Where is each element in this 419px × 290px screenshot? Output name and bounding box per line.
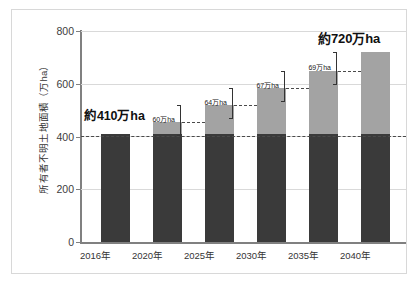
delta-label-2035: 67万ha — [252, 80, 279, 90]
connector-2035-top — [338, 71, 361, 72]
bar-2025[interactable] — [205, 105, 234, 242]
x-label-2040: 2040年 — [335, 248, 376, 262]
chart-root: 所有者不明土地面積（万ha） 800 600 400 200 0 — [0, 0, 419, 290]
delta-bracket-2030 — [229, 88, 233, 119]
x-axis-line — [80, 242, 406, 244]
reference-line-410 — [81, 136, 406, 137]
bar-2035-base — [309, 134, 338, 242]
y-tick-label-600: 600 — [32, 79, 74, 89]
x-label-2020: 2020年 — [127, 248, 168, 262]
bar-2020[interactable] — [153, 122, 182, 242]
bar-2030[interactable] — [257, 88, 286, 242]
delta-bracket-2040 — [333, 52, 337, 85]
x-label-2025: 2025年 — [179, 248, 220, 262]
bar-2020-base — [153, 134, 182, 242]
delta-bracket-2025 — [177, 105, 181, 136]
delta-bracket-2035 — [281, 71, 285, 102]
plot-area — [81, 31, 406, 242]
y-axis-tick-labels: 800 600 400 200 0 — [28, 0, 74, 290]
x-label-2030: 2030年 — [231, 248, 272, 262]
bar-2040-base — [361, 134, 390, 242]
bar-2030-base — [257, 134, 286, 242]
x-label-2035: 2035年 — [283, 248, 324, 262]
delta-label-2040: 69万ha — [304, 62, 331, 72]
connector-2025-top — [234, 105, 257, 106]
bar-2040-increment — [361, 52, 390, 134]
bar-2025-base — [205, 134, 234, 242]
bar-2040[interactable] — [361, 52, 390, 242]
bar-2035[interactable] — [309, 71, 338, 242]
connector-2020-top — [182, 122, 205, 123]
y-tick-label-400: 400 — [32, 132, 74, 142]
y-tick-label-800: 800 — [32, 26, 74, 36]
bar-2016-base — [101, 134, 130, 242]
y-tick-label-0: 0 — [32, 237, 74, 247]
callout-start-value: 約410万ha — [84, 105, 145, 124]
y-tick-label-200: 200 — [32, 184, 74, 194]
delta-label-2030: 64万ha — [200, 97, 227, 107]
callout-end-value: 約720万ha — [318, 28, 380, 47]
gridline-600 — [81, 84, 406, 85]
delta-label-2025: 60万ha — [148, 114, 175, 124]
bar-2016[interactable] — [101, 134, 130, 242]
x-label-2016: 2016年 — [75, 248, 116, 262]
y-axis-title-container: 所有者不明土地面積（万ha） — [26, 0, 27, 290]
connector-2030-top — [286, 88, 309, 89]
